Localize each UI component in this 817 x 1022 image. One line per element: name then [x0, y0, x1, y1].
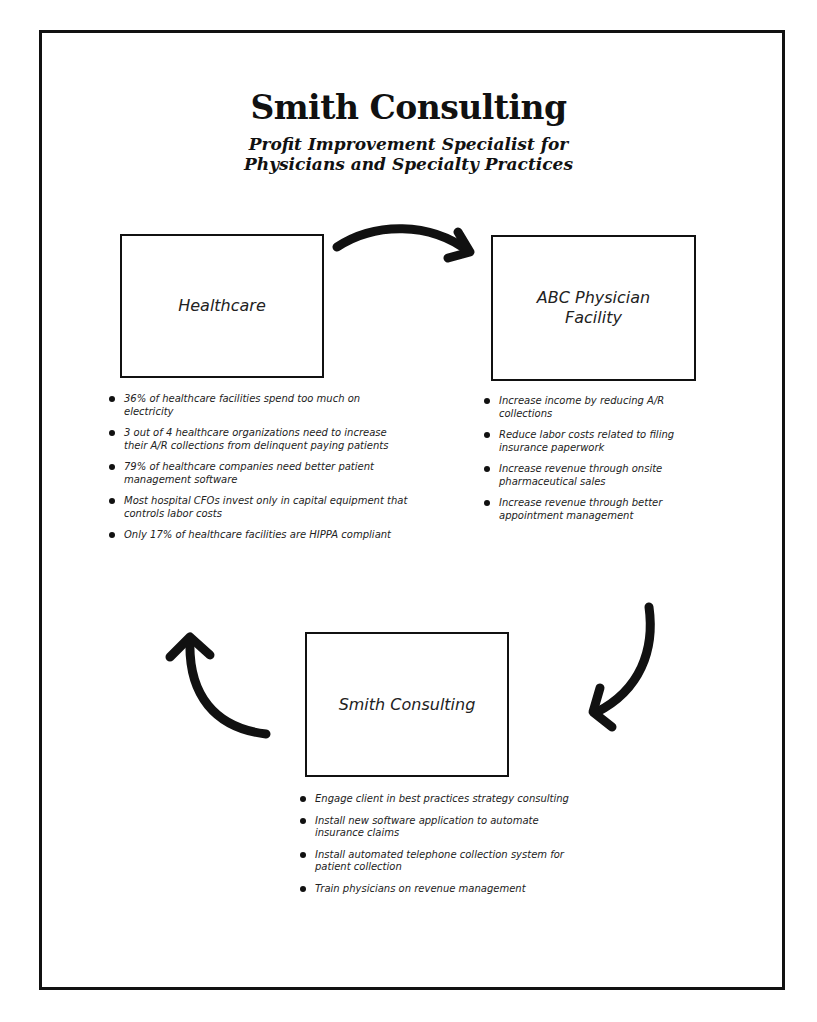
- list-item: 36% of healthcare facilities spend too m…: [108, 393, 408, 418]
- list-item: 3 out of 4 healthcare organizations need…: [108, 427, 408, 452]
- node-label: Smith Consulting: [339, 695, 476, 715]
- list-item: Train physicians on revenue management: [299, 883, 574, 896]
- page-title: Smith Consulting: [0, 88, 817, 127]
- list-item: Most hospital CFOs invest only in capita…: [108, 495, 408, 520]
- list-item: Increase income by reducing A/R collecti…: [483, 395, 708, 420]
- list-item-text: Reduce labor costs related to filing ins…: [499, 429, 674, 453]
- abc-physician-facility-bullet-list: Increase income by reducing A/R collecti…: [483, 395, 708, 531]
- list-item-text: Increase revenue through onsite pharmace…: [499, 463, 662, 487]
- bullet-icon: [300, 852, 306, 858]
- bullet-icon: [484, 500, 490, 506]
- healthcare-bullet-list: 36% of healthcare facilities spend too m…: [108, 393, 408, 551]
- list-item: Reduce labor costs related to filing ins…: [483, 429, 708, 454]
- list-item-text: 36% of healthcare facilities spend too m…: [124, 393, 360, 417]
- bullet-icon: [300, 796, 306, 802]
- list-item-text: Increase revenue through better appointm…: [499, 497, 662, 521]
- node-label-line: ABC Physician: [537, 288, 650, 308]
- list-item-text: Increase income by reducing A/R collecti…: [499, 395, 664, 419]
- list-item-text: Engage client in best practices strategy…: [315, 793, 569, 804]
- list-item-text: Install automated telephone collection s…: [315, 849, 564, 873]
- smith-consulting-bullet-list: Engage client in best practices strategy…: [299, 793, 574, 904]
- list-item-text: 79% of healthcare companies need better …: [124, 461, 374, 485]
- bullet-icon: [109, 532, 115, 538]
- subtitle-line: Physicians and Specialty Practices: [0, 154, 817, 174]
- list-item: Install automated telephone collection s…: [299, 849, 574, 874]
- node-smith-consulting: Smith Consulting: [305, 632, 509, 777]
- bullet-icon: [300, 818, 306, 824]
- list-item: Engage client in best practices strategy…: [299, 793, 574, 806]
- node-healthcare: Healthcare: [120, 234, 324, 378]
- bullet-icon: [484, 432, 490, 438]
- list-item-text: Most hospital CFOs invest only in capita…: [124, 495, 407, 519]
- list-item: Increase revenue through better appointm…: [483, 497, 708, 522]
- list-item-text: 3 out of 4 healthcare organizations need…: [124, 427, 388, 451]
- list-item-text: Install new software application to auto…: [315, 815, 539, 839]
- node-label-line: Facility: [537, 308, 650, 328]
- list-item: Increase revenue through onsite pharmace…: [483, 463, 708, 488]
- bullet-icon: [300, 886, 306, 892]
- list-item-text: Only 17% of healthcare facilities are HI…: [124, 529, 391, 540]
- bullet-icon: [109, 430, 115, 436]
- list-item: 79% of healthcare companies need better …: [108, 461, 408, 486]
- bullet-icon: [109, 396, 115, 402]
- bullet-icon: [484, 466, 490, 472]
- node-abc-physician-facility: ABC Physician Facility: [491, 235, 696, 381]
- bullet-icon: [109, 464, 115, 470]
- node-label: ABC Physician Facility: [537, 288, 650, 328]
- node-label: Healthcare: [178, 296, 266, 316]
- list-item-text: Train physicians on revenue management: [315, 883, 526, 894]
- bullet-icon: [109, 498, 115, 504]
- page-subtitle: Profit Improvement Specialist for Physic…: [0, 134, 817, 174]
- list-item: Only 17% of healthcare facilities are HI…: [108, 529, 408, 542]
- subtitle-line: Profit Improvement Specialist for: [0, 134, 817, 154]
- list-item: Install new software application to auto…: [299, 815, 574, 840]
- bullet-icon: [484, 398, 490, 404]
